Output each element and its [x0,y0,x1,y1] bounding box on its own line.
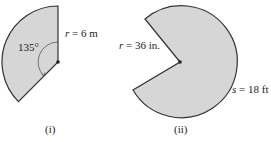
sector-i-center [56,60,60,64]
sector-ii [133,6,237,118]
radius-label-ii: r = 36 in. [119,40,160,51]
radius-label-i: r = 6 m [65,28,98,39]
angle-label-i: 135° [18,42,39,53]
caption-i: (i) [45,124,55,135]
caption-ii: (ii) [174,124,187,135]
sector-ii-center [178,60,182,64]
arc-label-ii: s = 18 ft [232,84,268,95]
sector-i [2,6,58,102]
sector-diagrams [0,0,271,142]
